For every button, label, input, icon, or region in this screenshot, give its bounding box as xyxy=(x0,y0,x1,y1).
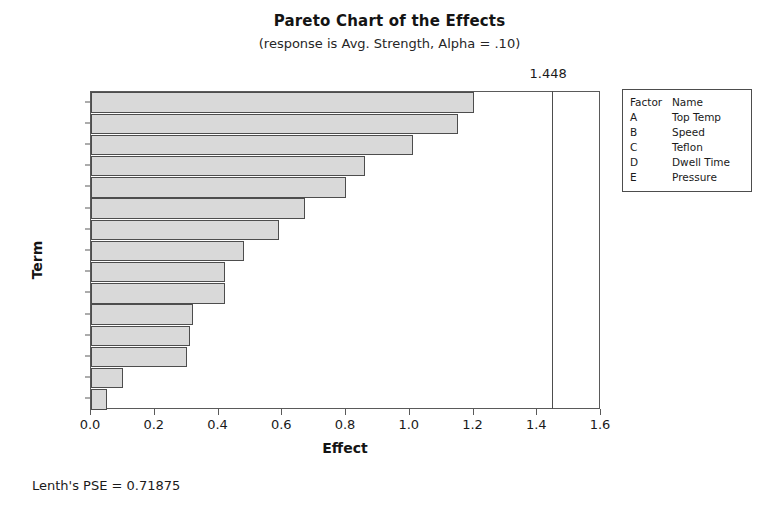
bar-row xyxy=(91,326,601,347)
legend-factor: E xyxy=(630,170,672,185)
x-axis-title: Effect xyxy=(90,440,600,456)
bar-AE xyxy=(91,304,193,325)
legend-row: EPressure xyxy=(623,170,751,185)
bar-row xyxy=(91,304,601,325)
bar-row xyxy=(91,92,601,113)
bar-row xyxy=(91,114,601,135)
bar-DE xyxy=(91,241,244,262)
legend-name: Teflon xyxy=(672,140,744,155)
x-tick-0.8: 0.8 xyxy=(335,417,356,432)
y-axis-title: Term xyxy=(29,240,45,279)
x-tick-mark xyxy=(90,409,91,415)
legend-row: CTeflon xyxy=(623,140,751,155)
pareto-chart: Pareto Chart of the Effects (response is… xyxy=(0,0,779,519)
bar-row xyxy=(91,368,601,389)
bar-row xyxy=(91,262,601,283)
legend-name: Speed xyxy=(672,125,744,140)
legend-row: DDwell Time xyxy=(623,155,751,170)
bar-row xyxy=(91,177,601,198)
bar-row xyxy=(91,347,601,368)
x-tick-0.2: 0.2 xyxy=(143,417,164,432)
legend-factor: C xyxy=(630,140,672,155)
x-tick-mark xyxy=(473,409,474,415)
bar-BC xyxy=(91,262,225,283)
x-tick-1.2: 1.2 xyxy=(462,417,483,432)
bar-CD xyxy=(91,135,413,156)
x-tick-1.4: 1.4 xyxy=(526,417,547,432)
x-tick-mark xyxy=(409,409,410,415)
legend-name: Top Temp xyxy=(672,110,744,125)
bar-A xyxy=(91,198,305,219)
plot-area xyxy=(90,91,600,409)
reference-line xyxy=(552,91,553,409)
chart-title: Pareto Chart of the Effects xyxy=(0,12,779,30)
bar-C xyxy=(91,114,458,135)
x-tick-1.6: 1.6 xyxy=(590,417,611,432)
x-tick-mark xyxy=(345,409,346,415)
reference-line-label: 1.448 xyxy=(530,66,567,81)
legend-row: BSpeed xyxy=(623,125,751,140)
bar-BD xyxy=(91,283,225,304)
x-tick-mark xyxy=(281,409,282,415)
bar-E xyxy=(91,347,187,368)
bar-AD xyxy=(91,326,190,347)
bar-AC xyxy=(91,156,365,177)
bar-D xyxy=(91,220,279,241)
legend-header: Factor Name xyxy=(623,95,751,110)
bar-BE xyxy=(91,177,346,198)
legend-factor: A xyxy=(630,110,672,125)
bar-series xyxy=(91,92,599,408)
legend-name: Pressure xyxy=(672,170,744,185)
chart-subtitle: (response is Avg. Strength, Alpha = .10) xyxy=(0,36,779,51)
x-tick-0.6: 0.6 xyxy=(271,417,292,432)
x-tick-mark xyxy=(600,409,601,415)
legend-header-factor: Factor xyxy=(630,95,672,110)
lenths-pse-note: Lenth's PSE = 0.71875 xyxy=(32,478,180,493)
bar-CE xyxy=(91,389,107,410)
legend-factor: D xyxy=(630,155,672,170)
bar-row xyxy=(91,389,601,410)
bar-B xyxy=(91,368,123,389)
legend-name: Dwell Time xyxy=(672,155,744,170)
factor-legend: Factor Name ATop TempBSpeedCTeflonDDwell… xyxy=(622,89,752,192)
x-tick-0.0: 0.0 xyxy=(80,417,101,432)
bar-AB xyxy=(91,92,474,113)
x-tick-0.4: 0.4 xyxy=(207,417,228,432)
bar-row xyxy=(91,241,601,262)
legend-factor: B xyxy=(630,125,672,140)
bar-row xyxy=(91,135,601,156)
bar-row xyxy=(91,220,601,241)
legend-row: ATop Temp xyxy=(623,110,751,125)
x-tick-mark xyxy=(154,409,155,415)
bar-row xyxy=(91,283,601,304)
legend-header-name: Name xyxy=(672,95,744,110)
bar-row xyxy=(91,156,601,177)
bar-row xyxy=(91,198,601,219)
x-tick-mark xyxy=(536,409,537,415)
x-tick-1.0: 1.0 xyxy=(398,417,419,432)
x-tick-mark xyxy=(218,409,219,415)
